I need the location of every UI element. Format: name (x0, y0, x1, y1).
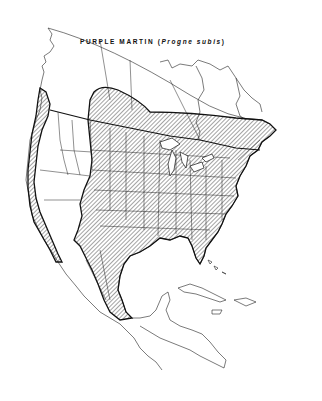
range-map (0, 0, 322, 401)
breeding-range (28, 87, 276, 320)
